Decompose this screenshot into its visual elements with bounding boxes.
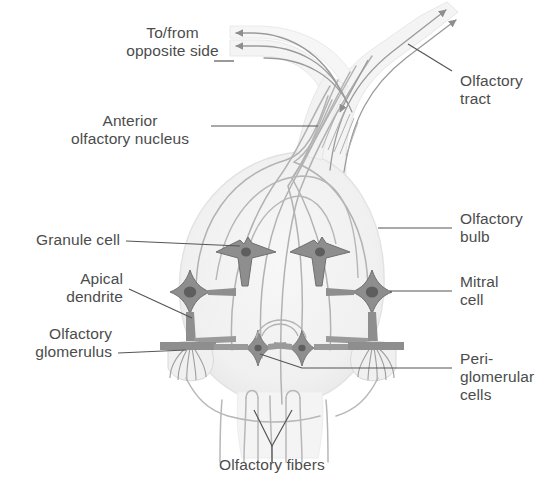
label-olfactory-bulb: Olfactory bulb [460, 210, 550, 246]
label-mitral-cell: Mitral cell [460, 273, 550, 309]
olfactory-glomerulus-right [348, 342, 404, 382]
figure-canvas: To/from opposite side Anterior olfactory… [0, 0, 550, 495]
label-anterior-olfactory-nucleus: Anterior olfactory nucleus [50, 112, 210, 148]
leader-olfactory-tract [408, 44, 452, 71]
label-olfactory-fibers: Olfactory fibers [152, 456, 392, 474]
label-periglomerular-cells: Peri- glomerular cells [460, 350, 550, 404]
label-apical-dendrite: Apical dendrite [0, 270, 123, 306]
olfactory-glomerulus-left [160, 342, 216, 382]
label-to-from-opposite-side: To/from opposite side [110, 24, 235, 60]
label-olfactory-tract: Olfactory tract [460, 72, 550, 108]
label-granule-cell: Granule cell [0, 231, 120, 249]
label-olfactory-glomerulus: Olfactory glomerulus [0, 325, 112, 361]
